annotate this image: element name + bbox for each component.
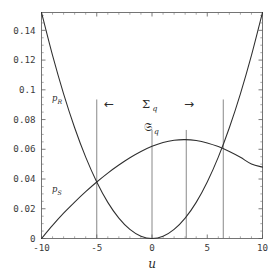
svg-text:S: S: [57, 189, 61, 196]
chart-figure: 00.020.040.060.080.10.120.14 -10-50510 p…: [0, 0, 274, 277]
curve-label-pR: p R: [52, 93, 62, 105]
y-tick-label: 0.1: [19, 84, 36, 95]
svg-text:u: u: [148, 257, 156, 271]
right-arrow-icon: →: [184, 97, 194, 111]
y-tick-label: 0.12: [13, 54, 35, 65]
x-tick-label: 5: [204, 242, 210, 253]
y-tick-label: 0.02: [13, 203, 35, 214]
svg-text:R: R: [56, 98, 62, 105]
x-tick-label: -5: [91, 242, 102, 253]
svg-text:𝔖: 𝔖: [144, 120, 153, 134]
sigma-q-annotation: Σ q: [142, 97, 158, 113]
left-arrow-icon: ←: [104, 97, 114, 111]
region-boundary-lines: [97, 99, 224, 238]
svg-text:Σ: Σ: [142, 97, 150, 111]
x-tick-label: 0: [149, 242, 155, 253]
svg-text:→: →: [184, 97, 194, 111]
y-tick-label: 0.06: [13, 143, 35, 154]
y-tick-label: 0.14: [13, 25, 36, 36]
svg-text:←: ←: [104, 97, 114, 111]
plot-canvas: 00.020.040.060.080.10.120.14 -10-50510 p…: [0, 0, 274, 277]
x-axis-title: u: [148, 257, 156, 271]
curve-label-pS: p S: [52, 184, 62, 196]
x-tick-label: -10: [33, 242, 50, 253]
svg-text:q: q: [153, 104, 158, 113]
y-tick-label: 0.08: [13, 114, 35, 125]
x-tick-label: 10: [257, 242, 268, 253]
y-tick-label: 0.04: [13, 173, 36, 184]
frak-s-q-annotation: 𝔖 q: [144, 120, 159, 136]
svg-text:q: q: [154, 127, 159, 136]
